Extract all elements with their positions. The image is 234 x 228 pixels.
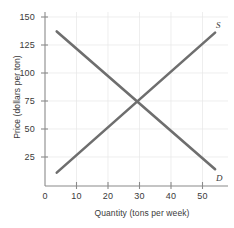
y-tick-label-150: 150: [9, 12, 35, 22]
x-tick-label-20: 20: [98, 191, 118, 201]
demand-curve-label: D: [216, 173, 223, 183]
y-axis-title: Price (dollars per ton): [12, 32, 22, 162]
supply-curve-label: S: [216, 20, 221, 30]
x-tick-label-30: 30: [130, 191, 150, 201]
x-tick-label-0: 0: [35, 191, 55, 201]
x-axis-title: Quantity (tons per week): [62, 208, 222, 218]
gridlines-horizontal: [45, 17, 228, 157]
x-tick-label-50: 50: [193, 191, 213, 201]
x-tick-label-40: 40: [161, 191, 181, 201]
supply-demand-chart: 150 125 100 75 50 25 0 10 20 30 40 50 Pr…: [0, 0, 234, 228]
x-tick-label-10: 10: [67, 191, 87, 201]
